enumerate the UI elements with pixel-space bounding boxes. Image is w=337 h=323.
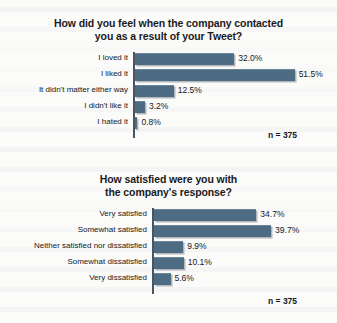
- bar-value-label: 12.5%: [178, 84, 202, 97]
- category-label: I liked it: [8, 68, 128, 80]
- bar-value-label: 32.0%: [238, 52, 262, 65]
- bar: [135, 53, 234, 65]
- chart-satisfaction-with-response: How satisfied were you with the company'…: [0, 160, 337, 323]
- category-label: Somewhat dissatisfied: [6, 256, 147, 268]
- plot-area: I loved it32.0%I liked it51.5%It didn't …: [0, 52, 337, 132]
- bar: [154, 273, 171, 285]
- bar-row: Somewhat dissatisfied10.1%: [0, 256, 337, 272]
- bar-value-label: 5.6%: [175, 272, 194, 285]
- bar-row: I didn't like it3.2%: [0, 100, 337, 116]
- bar-value-label: 34.7%: [260, 208, 284, 221]
- bar-value-label: 10.1%: [188, 256, 212, 269]
- bar-row: Very dissatisfied5.6%: [0, 272, 337, 288]
- bar-value-label: 39.7%: [275, 224, 299, 237]
- category-label: I loved it: [8, 52, 128, 64]
- bar: [135, 69, 295, 81]
- sample-size-note: n = 375: [268, 130, 297, 140]
- bar-value-label: 0.8%: [141, 116, 160, 129]
- bar-value-label: 51.5%: [299, 68, 323, 81]
- bar-row: Somewhat satisfied39.7%: [0, 224, 337, 240]
- bar: [154, 209, 256, 221]
- bar-value-label: 9.9%: [187, 240, 206, 253]
- bar-row: Neither satisfied nor dissatisfied9.9%: [0, 240, 337, 256]
- category-label: Somewhat satisfied: [6, 224, 147, 236]
- bar-row: Very satisfied34.7%: [0, 208, 337, 224]
- plot-area: Very satisfied34.7%Somewhat satisfied39.…: [0, 208, 337, 288]
- chart-title: How satisfied were you with the company'…: [0, 160, 337, 199]
- chart-title: How did you feel when the company contac…: [0, 0, 337, 43]
- category-label: I didn't like it: [8, 100, 128, 112]
- bar: [154, 225, 271, 237]
- category-label: Very dissatisfied: [6, 272, 147, 284]
- bar: [154, 257, 184, 269]
- bar: [135, 117, 137, 129]
- bar: [135, 85, 174, 97]
- bar: [135, 101, 145, 113]
- category-label: Very satisfied: [6, 208, 147, 220]
- bar-row: I liked it51.5%: [0, 68, 337, 84]
- bar: [154, 241, 183, 253]
- chart-feeling-after-contact: How did you feel when the company contac…: [0, 0, 337, 160]
- category-label: It didn't matter either way: [8, 84, 128, 96]
- bar-row: I loved it32.0%: [0, 52, 337, 68]
- category-label: I hated it: [8, 116, 128, 128]
- sample-size-note: n = 375: [268, 296, 297, 306]
- bar-row: It didn't matter either way12.5%: [0, 84, 337, 100]
- bar-value-label: 3.2%: [149, 100, 168, 113]
- category-label: Neither satisfied nor dissatisfied: [6, 240, 147, 252]
